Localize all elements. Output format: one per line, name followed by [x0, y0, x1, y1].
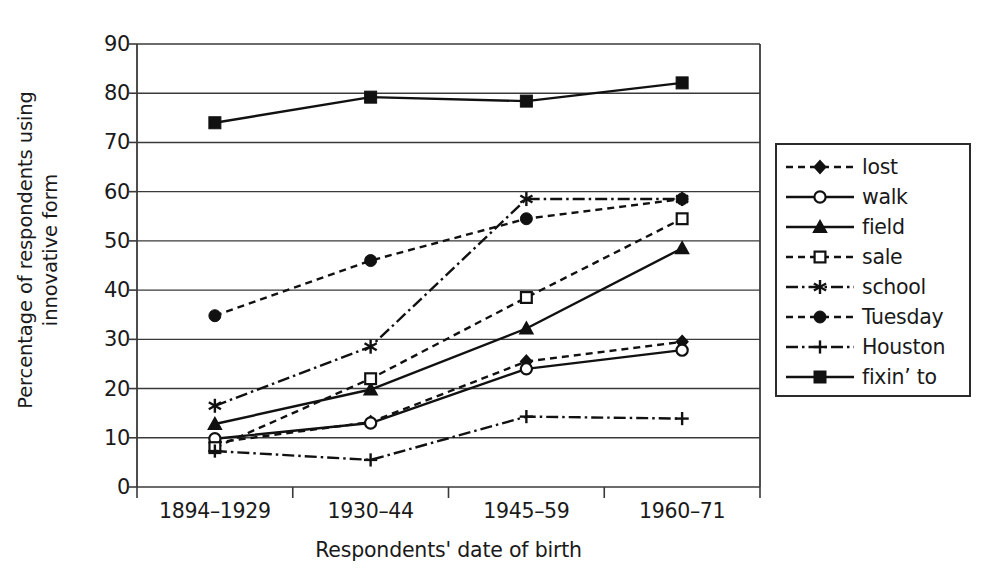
legend-key-filled-triangle-icon	[784, 214, 856, 240]
legend-label: field	[862, 216, 905, 238]
legend-item-school[interactable]: school	[777, 272, 969, 302]
legend-label: fixin’ to	[862, 366, 937, 388]
legend-key-open-circle-icon	[784, 184, 856, 210]
legend-key-asterisk-icon	[784, 274, 856, 300]
legend-item-fixin-to[interactable]: fixin’ to	[777, 362, 969, 392]
legend-label: walk	[862, 186, 908, 208]
legend-key-plus-icon	[784, 334, 856, 360]
legend-item-tuesday[interactable]: Tuesday	[777, 302, 969, 332]
legend-label: lost	[862, 156, 898, 178]
legend-label: school	[862, 276, 926, 298]
legend-key-filled-diamond-icon	[784, 154, 856, 180]
legend-key-open-square-icon	[784, 244, 856, 270]
legend-item-lost[interactable]: lost	[777, 152, 969, 182]
legend-label: sale	[862, 246, 902, 268]
x-axis-title: Respondents' date of birth	[137, 538, 760, 562]
legend-key-filled-square-icon	[784, 364, 856, 390]
line-chart: Percentage of respondents using innovati…	[0, 0, 985, 582]
legend-item-walk[interactable]: walk	[777, 182, 969, 212]
x-axis-tick-label: 1894–1929	[159, 500, 271, 522]
x-axis-tick-label: 1945–59	[483, 500, 569, 522]
legend-item-sale[interactable]: sale	[777, 242, 969, 272]
legend-label: Tuesday	[862, 306, 943, 328]
x-axis-tick-label: 1930–44	[327, 500, 413, 522]
x-axis-tick-label: 1960–71	[639, 500, 725, 522]
chart-legend: lostwalkfieldsaleschoolTuesdayHoustonfix…	[775, 143, 971, 397]
legend-key-filled-circle-icon	[784, 304, 856, 330]
legend-label: Houston	[862, 336, 945, 358]
legend-item-houston[interactable]: Houston	[777, 332, 969, 362]
legend-item-field[interactable]: field	[777, 212, 969, 242]
